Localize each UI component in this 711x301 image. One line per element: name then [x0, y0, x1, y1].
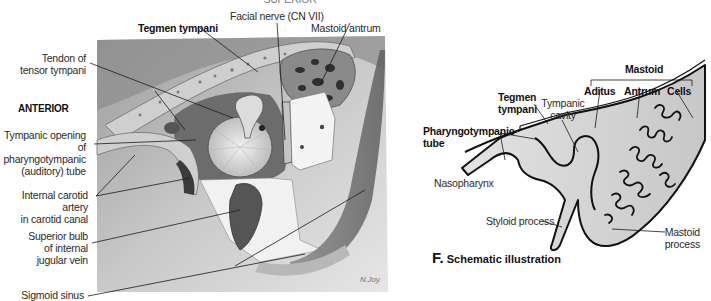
superior-label: SUPERIOR: [250, 0, 330, 5]
label-line: Superior bulb: [0, 230, 88, 242]
label-tympanic-opening: Tympanic opening of pharyngotympanic (au…: [0, 129, 86, 177]
label-line: (auditory) tube: [0, 165, 86, 177]
figure-caption: F. Schematic illustration: [432, 249, 561, 266]
label-line: Internal carotid artery: [0, 189, 88, 213]
label-line: of internal: [0, 242, 88, 254]
orientation-anterior: ANTERIOR: [18, 103, 69, 115]
label-tegmen-tympani-schematic: Tegmen tympani: [498, 91, 537, 115]
label-tegmen-tympani: Tegmen tympani: [138, 22, 218, 34]
label-superior-bulb: Superior bulb of internal jugular vein: [0, 230, 88, 266]
figure-title: Schematic illustration: [447, 253, 561, 265]
label-line: process: [660, 238, 700, 250]
label-line: Tendon of: [0, 52, 86, 64]
ear-dissection-illustration: [0, 0, 711, 301]
label-line: Tympanic opening of: [0, 129, 86, 153]
label-line: Pharyngotympanic: [423, 125, 514, 137]
label-line: in carotid canal: [0, 213, 88, 225]
label-line: Tympanic: [540, 97, 586, 109]
label-mastoid: Mastoid: [625, 63, 663, 75]
label-line: pharyngotympanic: [0, 153, 86, 165]
label-mastoid-antrum: Mastoid antrum: [311, 22, 381, 34]
label-line: tensor tympani: [0, 64, 86, 76]
label-line: tympani: [498, 103, 537, 115]
label-line: jugular vein: [0, 254, 88, 266]
label-tympanic-cavity: Tympanic cavity: [540, 97, 586, 121]
label-tendon-tensor-tympani: Tendon of tensor tympani: [0, 52, 86, 76]
label-aditus: Aditus: [584, 85, 615, 97]
label-mastoid-process: Mastoid process: [660, 226, 700, 250]
figure-letter: F.: [432, 249, 444, 266]
label-line: Mastoid: [660, 226, 700, 238]
label-nasopharynx: Nasopharynx: [434, 177, 494, 189]
label-sigmoid-sinus: Sigmoid sinus: [0, 289, 84, 301]
label-line: tube: [423, 137, 514, 149]
label-cells: Cells: [667, 85, 691, 97]
label-line: Tegmen: [498, 91, 537, 103]
artist-signature-text: N.Joy.: [360, 274, 381, 286]
label-styloid-process: Styloid process: [486, 215, 554, 227]
label-pharyngotympanic-tube: Pharyngotympanic tube: [423, 125, 514, 149]
label-facial-nerve: Facial nerve (CN VII): [230, 10, 324, 22]
label-antrum: Antrum: [624, 85, 660, 97]
label-internal-carotid: Internal carotid artery in carotid canal: [0, 189, 88, 225]
dissection-drawing: [97, 36, 388, 292]
label-line: cavity: [540, 109, 586, 121]
